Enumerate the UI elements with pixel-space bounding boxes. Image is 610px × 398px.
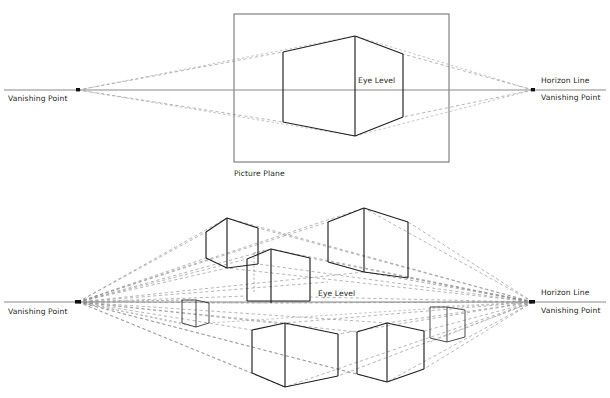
label-eye-level-bottom: Eye Level: [318, 289, 355, 298]
vanishing-point-right-dot-top: [531, 88, 535, 91]
label-horizon-line-top: Horizon Line: [541, 76, 590, 85]
label-vanishing-point-left-bottom: Vanishing Point: [8, 307, 67, 316]
guides-to-left-vp-top: [78, 36, 355, 136]
diagram-canvas: .ink { stroke:#231f20; stroke-width:1.15…: [0, 0, 610, 398]
guides-to-right-vp-top: [355, 36, 533, 136]
bottom-panel-group: Vanishing Point Horizon Line Vanishing P…: [4, 208, 606, 387]
picture-plane-rect: [234, 14, 449, 162]
label-horizon-line-bottom: Horizon Line: [541, 288, 590, 297]
label-vanishing-point-right-top: Vanishing Point: [541, 93, 600, 102]
top-panel-group: Vanishing Point Horizon Line Vanishing P…: [4, 14, 606, 178]
cube-small-left: [182, 300, 209, 327]
label-vanishing-point-left-top: Vanishing Point: [8, 94, 67, 103]
cube-upper-right-large: [328, 208, 408, 278]
vanishing-point-left-dot-bottom: [75, 300, 81, 304]
label-eye-level-top: Eye Level: [358, 76, 395, 85]
cube-upper-left: [206, 218, 258, 268]
vanishing-point-left-dot-top: [76, 88, 80, 91]
top-cube: [283, 36, 403, 136]
label-picture-plane: Picture Plane: [234, 169, 285, 178]
vanishing-point-right-dot-bottom: [529, 300, 535, 304]
cube-lower-right: [357, 323, 424, 382]
perspective-diagram-figure: .ink { stroke:#231f20; stroke-width:1.15…: [0, 0, 610, 398]
label-vanishing-point-right-bottom: Vanishing Point: [541, 306, 600, 315]
cube-lower-left-large: [252, 323, 338, 387]
